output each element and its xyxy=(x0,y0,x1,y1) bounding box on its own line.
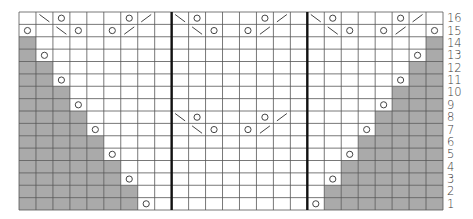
shaded-cell xyxy=(341,173,358,185)
chart-cell xyxy=(36,136,53,148)
row-number-label: 2 xyxy=(447,185,454,197)
shaded-cell xyxy=(87,198,104,210)
chart-cell xyxy=(36,148,53,160)
row-number-label: 5 xyxy=(447,148,454,160)
chart-cell xyxy=(19,86,36,98)
chart-cell xyxy=(426,99,443,111)
chart-cell xyxy=(70,136,87,148)
shaded-cell xyxy=(70,123,87,135)
shaded-cell xyxy=(358,161,375,173)
shaded-cell xyxy=(409,185,426,197)
shaded-cell xyxy=(53,148,70,160)
shaded-cell xyxy=(392,111,409,123)
shaded-cell xyxy=(409,86,426,98)
shaded-cell xyxy=(426,99,443,111)
shaded-cell xyxy=(358,148,375,160)
row-number-label: 9 xyxy=(447,99,454,111)
shaded-cell xyxy=(358,185,375,197)
shaded-cell xyxy=(121,198,138,210)
shaded-cell xyxy=(426,148,443,160)
chart-cell xyxy=(19,185,36,197)
shaded-cell xyxy=(36,62,53,74)
shaded-cell xyxy=(19,161,36,173)
chart-cell xyxy=(53,86,70,98)
row-number-label: 8 xyxy=(447,111,454,123)
chart-cell xyxy=(53,185,70,197)
shaded-cell xyxy=(375,198,392,210)
shaded-cell xyxy=(375,161,392,173)
chart-cell xyxy=(392,111,409,123)
chart-cell xyxy=(104,173,121,185)
shaded-cell xyxy=(53,136,70,148)
chart-cell xyxy=(409,173,426,185)
shaded-cell xyxy=(19,198,36,210)
shaded-cell xyxy=(409,136,426,148)
shaded-cell xyxy=(409,99,426,111)
chart-cell xyxy=(375,123,392,135)
shaded-cell xyxy=(426,62,443,74)
shaded-cell xyxy=(70,148,87,160)
chart-cell xyxy=(392,123,409,135)
shaded-cell xyxy=(426,136,443,148)
shaded-cell xyxy=(53,185,70,197)
shaded-cell xyxy=(409,161,426,173)
chart-cell xyxy=(392,148,409,160)
shaded-cell xyxy=(409,74,426,86)
row-number-label: 1 xyxy=(447,198,454,210)
chart-cell xyxy=(19,37,36,49)
row-number-label: 16 xyxy=(447,12,462,24)
chart-cell xyxy=(324,198,341,210)
shaded-cell xyxy=(358,173,375,185)
shaded-cell xyxy=(36,136,53,148)
row-number-label: 6 xyxy=(447,136,454,148)
shaded-cell xyxy=(104,173,121,185)
shaded-cell xyxy=(36,123,53,135)
shaded-cell xyxy=(53,123,70,135)
chart-cell xyxy=(358,136,375,148)
chart-cell xyxy=(36,99,53,111)
chart-cell xyxy=(19,74,36,86)
shaded-cell xyxy=(375,111,392,123)
chart-cell xyxy=(375,148,392,160)
row-number-label: 12 xyxy=(447,62,462,74)
chart-cell xyxy=(36,123,53,135)
shaded-cell xyxy=(70,161,87,173)
shaded-cell xyxy=(36,99,53,111)
chart-cell xyxy=(392,161,409,173)
shaded-cell xyxy=(19,148,36,160)
chart-cell xyxy=(375,198,392,210)
shaded-cell xyxy=(87,148,104,160)
chart-cell xyxy=(87,173,104,185)
chart-cell xyxy=(36,86,53,98)
shaded-cell xyxy=(426,161,443,173)
chart-cell xyxy=(426,198,443,210)
chart-cell xyxy=(426,74,443,86)
shaded-cell xyxy=(19,136,36,148)
chart-cell xyxy=(19,198,36,210)
chart-cell xyxy=(70,123,87,135)
shaded-cell xyxy=(36,173,53,185)
chart-cell xyxy=(70,173,87,185)
chart-cell xyxy=(19,49,36,61)
shaded-cell xyxy=(392,161,409,173)
chart-cell xyxy=(358,173,375,185)
shaded-cell xyxy=(426,49,443,61)
shaded-cell xyxy=(324,185,341,197)
shaded-cell xyxy=(392,173,409,185)
chart-cell xyxy=(104,198,121,210)
shaded-cell xyxy=(19,123,36,135)
shaded-cell xyxy=(53,99,70,111)
chart-cell xyxy=(409,99,426,111)
row-number-label: 10 xyxy=(447,86,462,98)
shaded-cell xyxy=(358,136,375,148)
chart-cell xyxy=(375,173,392,185)
chart-cell xyxy=(53,161,70,173)
shaded-cell xyxy=(19,86,36,98)
shaded-cell xyxy=(375,123,392,135)
chart-cell xyxy=(409,161,426,173)
chart-cell xyxy=(36,173,53,185)
chart-cell xyxy=(70,198,87,210)
shaded-cell xyxy=(53,161,70,173)
shaded-cell xyxy=(36,111,53,123)
chart-cell xyxy=(409,148,426,160)
